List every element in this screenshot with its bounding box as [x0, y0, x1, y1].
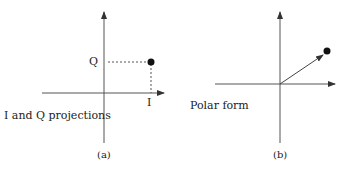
panel-a-axes: [42, 12, 164, 143]
panel-a-title: I and Q projections: [4, 110, 111, 121]
panel-b-caption: (b): [273, 150, 287, 160]
panel-a-caption: (a): [97, 150, 111, 160]
panel-b-title: Polar form: [190, 100, 249, 111]
panel-b-point: [324, 48, 331, 55]
polar-vector: [280, 55, 323, 84]
panel-b-axes: [215, 12, 335, 143]
q-label: Q: [89, 56, 98, 67]
i-label: I: [147, 97, 151, 108]
diagram-canvas: [0, 0, 349, 172]
panel-a-point: [148, 59, 155, 66]
